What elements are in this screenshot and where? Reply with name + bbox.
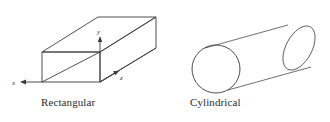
prism-front-diagonal xyxy=(42,52,100,82)
cylinder-top-edge xyxy=(205,25,288,48)
cylinder-bottom-edge xyxy=(228,67,311,90)
rectangular-prism-drawing: x y z xyxy=(11,17,156,87)
prism-right-face xyxy=(100,17,156,82)
axis-y: y xyxy=(96,28,102,52)
cylinder-far-cap xyxy=(276,21,321,76)
axis-y-label: y xyxy=(96,28,101,36)
axis-x: x xyxy=(11,79,42,87)
axis-x-arrowhead xyxy=(20,80,26,85)
rectangular-caption: Rectangular xyxy=(41,96,95,108)
cylindrical-caption: Cylindrical xyxy=(190,96,241,108)
axis-z: z xyxy=(100,71,123,83)
axis-z-arrowhead xyxy=(113,71,120,76)
cylinder-near-circle xyxy=(192,45,240,93)
axis-z-label: z xyxy=(119,74,123,82)
axis-x-label: x xyxy=(11,79,16,87)
cylinder-drawing xyxy=(192,21,322,93)
axis-y-arrowhead xyxy=(98,36,103,42)
